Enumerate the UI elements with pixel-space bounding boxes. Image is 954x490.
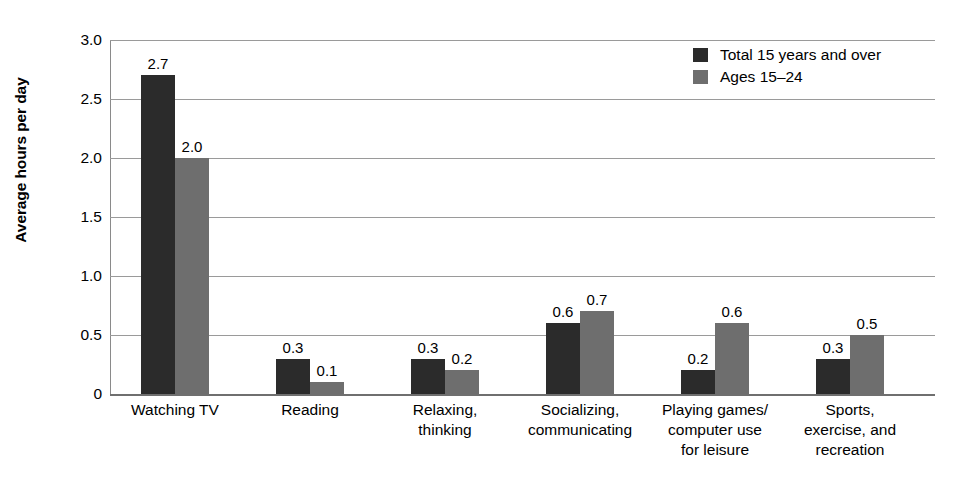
bar-value-label: 0.7	[574, 292, 620, 308]
gridline	[110, 217, 935, 218]
bar-value-label: 0.2	[439, 351, 485, 367]
x-axis-category-label: Reading	[240, 400, 380, 420]
bar-value-label: 0.1	[304, 363, 350, 379]
y-tick-label: 2.5	[6, 91, 102, 107]
chart-legend: Total 15 years and overAges 15–24	[693, 44, 881, 88]
plot-area: 2.72.00.30.10.30.20.60.70.20.60.30.5	[110, 40, 935, 394]
legend-label: Ages 15–24	[720, 68, 803, 86]
x-axis-category-label: Socializing, communicating	[510, 400, 650, 440]
legend-item: Total 15 years and over	[693, 44, 881, 66]
bar	[310, 382, 344, 394]
y-tick-label: 1.5	[6, 209, 102, 225]
gridline	[110, 99, 935, 100]
gridline	[110, 276, 935, 277]
y-tick-label: 0	[6, 386, 102, 402]
legend-item: Ages 15–24	[693, 66, 881, 88]
bar	[681, 370, 715, 394]
x-axis-category-label: Watching TV	[105, 400, 245, 420]
bar-value-label: 0.5	[844, 316, 890, 332]
bar	[175, 158, 209, 394]
gridline	[110, 335, 935, 336]
y-tick-label: 3.0	[6, 32, 102, 48]
y-tick-label: 1.0	[6, 268, 102, 284]
x-axis-category-label: Relaxing, thinking	[375, 400, 515, 440]
y-tick-label: 0.5	[6, 327, 102, 343]
bar	[546, 323, 580, 394]
bar-value-label: 0.3	[270, 340, 316, 356]
bar	[850, 335, 884, 394]
x-axis-baseline	[110, 394, 935, 396]
bar-value-label: 2.7	[135, 56, 181, 72]
y-tick-label: 2.0	[6, 150, 102, 166]
bar	[816, 359, 850, 394]
bar	[580, 311, 614, 394]
legend-label: Total 15 years and over	[720, 46, 881, 64]
bar	[141, 75, 175, 394]
bar-chart: Average hours per day 00.51.01.52.02.53.…	[0, 0, 954, 490]
bar	[715, 323, 749, 394]
gridline	[110, 40, 935, 41]
bar	[445, 370, 479, 394]
y-axis-tick-labels: 00.51.01.52.02.53.0	[0, 40, 102, 394]
bar-value-label: 2.0	[169, 139, 215, 155]
x-axis-category-label: Playing games/ computer use for leisure	[645, 400, 785, 460]
bar-value-label: 0.6	[709, 304, 755, 320]
legend-swatch-icon	[693, 48, 708, 62]
x-axis-category-label: Sports, exercise, and recreation	[780, 400, 920, 460]
legend-swatch-icon	[693, 70, 708, 84]
gridline	[110, 158, 935, 159]
